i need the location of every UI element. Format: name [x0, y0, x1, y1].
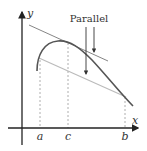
- y-axis-label: y: [26, 7, 34, 20]
- point-b-label: b: [121, 130, 128, 143]
- parallel-label: Parallel: [70, 13, 109, 24]
- point-c-label: c: [65, 130, 71, 143]
- diagram-canvas: Parallel y x a c b: [0, 0, 147, 151]
- x-axis-label: x: [132, 114, 139, 127]
- mvt-diagram: Parallel y x a c b: [0, 0, 147, 151]
- point-a-label: a: [37, 130, 44, 143]
- secant-line: [39, 58, 126, 97]
